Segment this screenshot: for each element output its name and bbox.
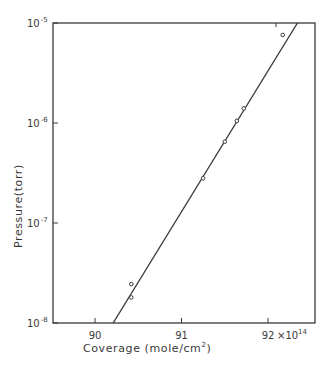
plot-area-border (53, 23, 315, 323)
y-tick-label: 10-7 (27, 216, 48, 229)
data-point (223, 140, 227, 144)
y-tick-label: 10-6 (27, 116, 48, 129)
y-tick-label: 10-8 (27, 316, 48, 329)
data-point (281, 33, 285, 37)
data-point (130, 296, 134, 300)
fit-line (113, 23, 297, 323)
y-axis-label: Pressure(torr) (12, 164, 25, 248)
data-point (201, 176, 205, 180)
plot-frame (53, 23, 315, 323)
regression-line (113, 23, 297, 323)
chart: 909192 10-510-610-710-8 ×1014 Coverage (… (0, 0, 334, 365)
y-axis-ticks: 10-510-610-710-8 (27, 16, 276, 329)
x-tick-label: 90 (89, 330, 102, 341)
x-tick-label: 91 (175, 330, 188, 341)
x-axis-ticks: 909192 (89, 318, 275, 341)
data-point (235, 119, 239, 123)
data-point (242, 107, 246, 111)
x-tick-label: 92 (262, 330, 275, 341)
x-multiplier: ×1014 (277, 328, 308, 341)
y-tick-label: 10-5 (27, 16, 48, 29)
x-axis-label: Coverage (mole/cm2) (83, 341, 211, 355)
data-point (130, 282, 134, 286)
